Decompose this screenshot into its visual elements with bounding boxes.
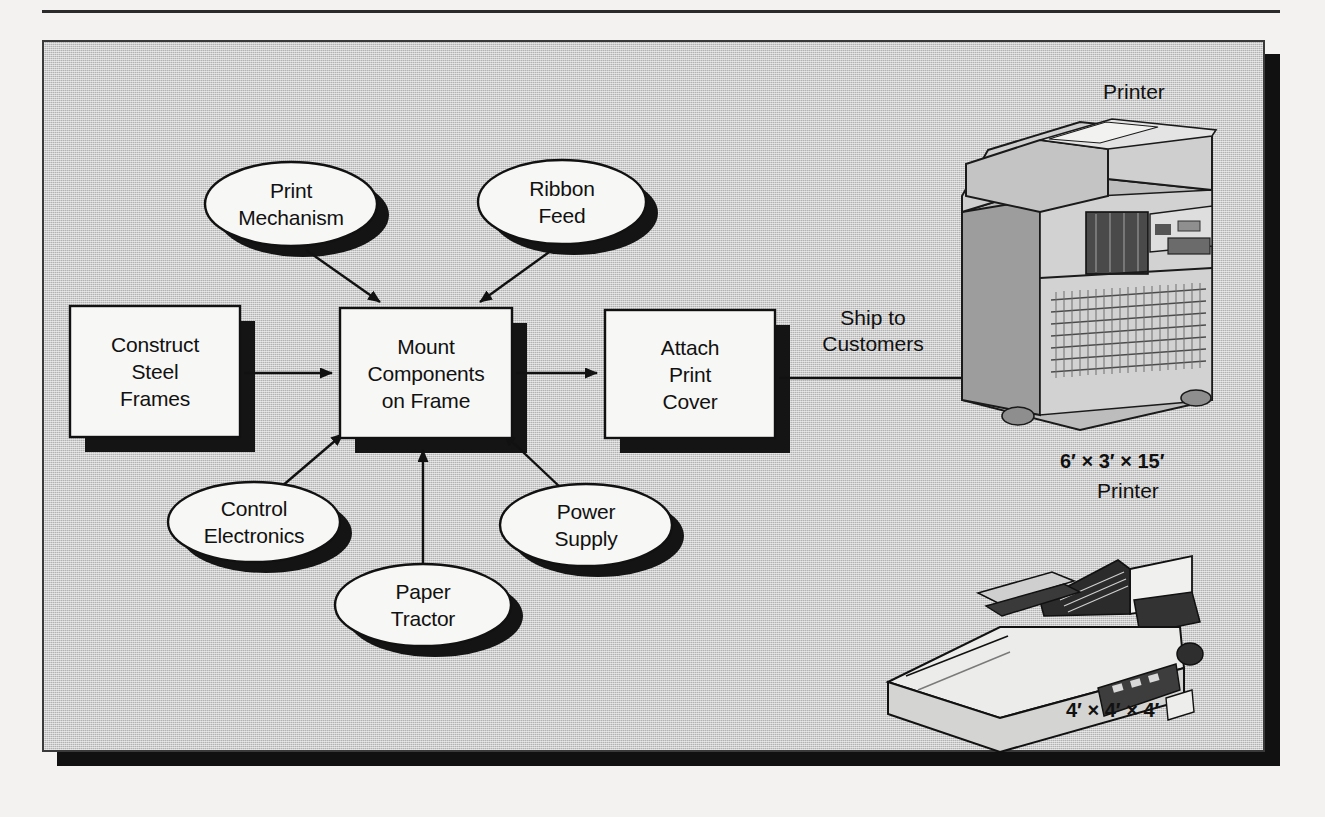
ellipse-label-control-electronics: Control Electronics — [168, 482, 340, 562]
printer-large-dimensions: 6′ × 3′ × 15′ — [1060, 448, 1164, 475]
diagram-page: Construct Steel Frames Mount Components … — [0, 0, 1325, 817]
ellipse-label-ribbon-feed: Ribbon Feed — [478, 160, 646, 244]
box-label-mount-components-on-frame: Mount Components on Frame — [340, 308, 512, 438]
ellipse-label-power-supply: Power Supply — [500, 484, 672, 566]
ellipse-label-print-mechanism: Print Mechanism — [205, 162, 377, 246]
box-label-attach-print-cover: Attach Print Cover — [605, 310, 775, 438]
edge-label-ship-to-customers: Ship to Customers — [793, 305, 953, 357]
box-label-construct-steel-frames: Construct Steel Frames — [70, 306, 240, 437]
printer-large-name: Printer — [1097, 477, 1159, 504]
top-horizontal-rule — [42, 10, 1280, 13]
printer-small-dimensions: 4′ × 4′ × 4′ — [1066, 697, 1159, 724]
printer-top-caption: Printer — [1103, 78, 1165, 105]
ellipse-label-paper-tractor: Paper Tractor — [335, 564, 511, 646]
